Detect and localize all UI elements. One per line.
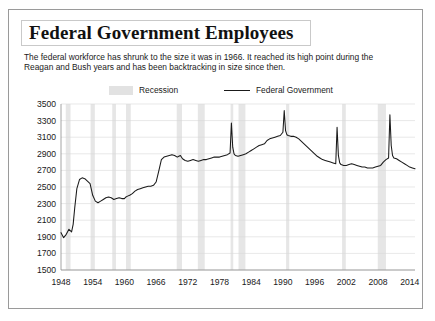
y-axis-tick-label: 2900	[37, 149, 56, 159]
x-axis-tick-label: 1978	[210, 277, 229, 287]
x-axis-tick-label: 2002	[337, 277, 356, 287]
recession-swatch-icon	[109, 86, 133, 95]
y-axis-tick-label: 3500	[37, 99, 56, 109]
y-axis-tick-label: 2500	[37, 182, 56, 192]
y-axis-tick-label: 1500	[37, 265, 56, 275]
x-axis-tick-label: 2008	[368, 277, 387, 287]
y-axis-tick-label: 2700	[37, 165, 56, 175]
x-axis-tick-label: 1960	[115, 277, 134, 287]
x-axis-tick-label: 2014	[400, 277, 419, 287]
y-axis-tick-label: 3300	[37, 116, 56, 126]
page-title: Federal Government Employees	[22, 22, 294, 44]
legend-label-recession: Recession	[139, 85, 178, 95]
x-axis-tick-label: 1966	[147, 277, 166, 287]
legend-label-federal-government: Federal Government	[256, 85, 333, 95]
series-line-icon	[224, 90, 250, 91]
title-box: Federal Government Employees	[21, 20, 311, 46]
y-axis-tick-label: 2300	[37, 199, 56, 209]
y-axis-tick-label: 2100	[37, 215, 56, 225]
legend-item-recession: Recession	[109, 83, 178, 97]
y-axis-tick-label: 1700	[37, 248, 56, 258]
figure-panel: Federal Government Employees The federal…	[8, 9, 423, 309]
x-axis-tick-label: 1954	[83, 277, 102, 287]
y-axis-tick-label: 3100	[37, 132, 56, 142]
figure-subtitle: The federal workforce has shrunk to the …	[24, 52, 394, 73]
y-axis-tick-labels: 1500170019002100230025002700290031003300…	[37, 99, 56, 275]
x-axis-tick-label: 1984	[242, 277, 261, 287]
x-axis-tick-label: 1990	[273, 277, 292, 287]
chart-legend: Recession Federal Government	[9, 83, 424, 97]
legend-item-federal-government: Federal Government	[224, 83, 333, 97]
y-axis-tick-label: 1900	[37, 232, 56, 242]
line-chart-svg: 1500170019002100230025002700290031003300…	[9, 98, 424, 298]
x-axis-tick-label: 1996	[305, 277, 324, 287]
x-axis-tick-label: 1948	[51, 277, 70, 287]
x-axis-tick-label: 1972	[178, 277, 197, 287]
plot-area: 1500170019002100230025002700290031003300…	[9, 98, 424, 298]
x-axis-tick-labels: 1948195419601966197219781984199019962002…	[51, 277, 419, 287]
